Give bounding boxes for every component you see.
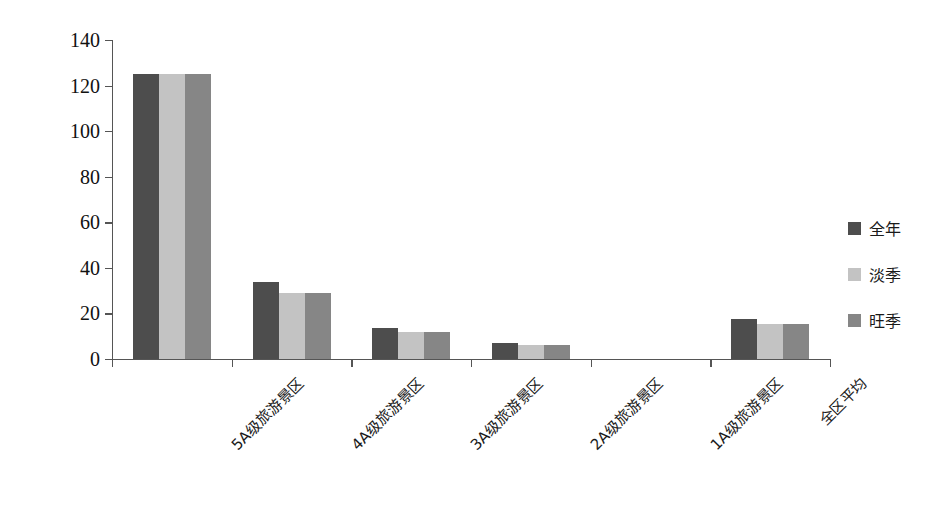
bar-group — [492, 40, 570, 359]
bar — [159, 74, 185, 359]
y-axis-tick-label: 120 — [70, 74, 100, 97]
y-axis-tick-label: 60 — [80, 211, 100, 234]
bar — [253, 282, 279, 359]
plot-area: 020406080100120140 — [112, 40, 830, 359]
legend-label: 淡季 — [869, 262, 901, 286]
y-axis-tick — [105, 313, 112, 314]
legend-item[interactable]: 旺季 — [848, 308, 901, 332]
bar-group — [372, 40, 450, 359]
x-axis-category-label: 2A级旅游景区 — [585, 372, 667, 454]
y-axis-tick — [105, 131, 112, 132]
bar — [492, 343, 518, 359]
y-axis-tick — [105, 359, 112, 360]
x-axis-category-label: 1A级旅游景区 — [704, 372, 786, 454]
legend-label: 旺季 — [869, 308, 901, 332]
bar — [731, 319, 757, 359]
x-axis-tick — [471, 359, 472, 367]
bar — [424, 332, 450, 359]
bar-group — [253, 40, 331, 359]
bar-group — [612, 40, 690, 359]
bar — [757, 324, 783, 359]
x-axis-tick — [112, 359, 113, 367]
chart-legend: 全年淡季旺季 — [848, 216, 901, 332]
x-axis-category-label: 全区平均 — [814, 372, 871, 429]
legend-swatch-icon — [848, 222, 861, 235]
y-axis-tick-label: 80 — [80, 165, 100, 188]
bar-group — [133, 40, 211, 359]
bar-group — [731, 40, 809, 359]
x-axis-category-label: 3A级旅游景区 — [465, 372, 547, 454]
y-axis-tick-label: 20 — [80, 302, 100, 325]
x-axis-tick — [591, 359, 592, 367]
legend-item[interactable]: 淡季 — [848, 262, 901, 286]
legend-swatch-icon — [848, 268, 861, 281]
y-axis-tick-label: 140 — [70, 29, 100, 52]
bar — [305, 293, 331, 359]
y-axis-tick-label: 100 — [70, 120, 100, 143]
bar — [279, 293, 305, 359]
y-axis-tick — [105, 177, 112, 178]
y-axis-tick-label: 0 — [90, 348, 100, 371]
bar — [185, 74, 211, 359]
y-axis-tick — [105, 40, 112, 41]
x-axis-tick — [830, 359, 831, 367]
x-axis-tick — [710, 359, 711, 367]
bar — [372, 328, 398, 359]
y-axis-tick — [105, 86, 112, 87]
bar — [518, 345, 544, 359]
bar — [783, 324, 809, 359]
x-axis-tick — [232, 359, 233, 367]
bar — [398, 332, 424, 359]
y-axis-tick — [105, 268, 112, 269]
legend-swatch-icon — [848, 314, 861, 327]
y-axis-tick-label: 40 — [80, 256, 100, 279]
bar — [133, 74, 159, 359]
bar — [544, 345, 570, 359]
x-axis-category-label: 4A级旅游景区 — [345, 372, 427, 454]
legend-label: 全年 — [869, 216, 901, 240]
x-axis-tick — [351, 359, 352, 367]
bar-chart: 平均门票价格（元/景区） 020406080100120140 全年淡季旺季 5… — [0, 0, 940, 516]
legend-item[interactable]: 全年 — [848, 216, 901, 240]
x-axis-category-label: 5A级旅游景区 — [226, 372, 308, 454]
y-axis-tick — [105, 222, 112, 223]
